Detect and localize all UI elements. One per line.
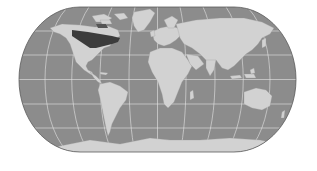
world-map bbox=[0, 0, 317, 171]
